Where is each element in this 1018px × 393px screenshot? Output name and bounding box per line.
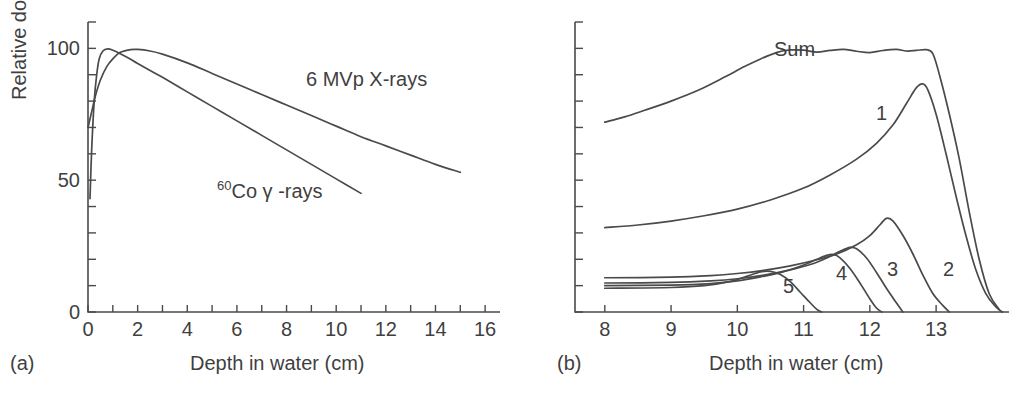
y-tick-label: 100 (47, 37, 80, 59)
figure-depth-dose: 0246810121416050100 Relative dose (%) De… (0, 0, 1018, 393)
x-tick-label: 16 (474, 318, 496, 340)
curve-60co-gamma-rays (90, 49, 361, 199)
x-tick-label: 14 (424, 318, 446, 340)
y-tick-label: 50 (58, 169, 80, 191)
x-tick-label: 6 (231, 318, 242, 340)
panel-a: 0246810121416050100 Relative dose (%) De… (0, 0, 509, 393)
panel-b: 8910111213 Depth in water (cm) (b) Sum 1… (509, 0, 1018, 393)
curve-2 (605, 218, 950, 312)
x-tick-label: 4 (182, 318, 193, 340)
x-tick-label: 8 (281, 318, 292, 340)
curve-sum (605, 49, 999, 309)
panel-b-plot: 8910111213 (509, 0, 1018, 393)
x-tick-label: 12 (859, 318, 881, 340)
y-tick-label: 0 (69, 301, 80, 323)
x-tick-label: 2 (132, 318, 143, 340)
x-tick-label: 11 (793, 318, 814, 340)
x-tick-label: 12 (375, 318, 397, 340)
x-tick-label: 8 (599, 318, 610, 340)
x-tick-label: 9 (666, 318, 677, 340)
x-tick-label: 10 (325, 318, 347, 340)
x-tick-label: 10 (726, 318, 748, 340)
x-tick-label: 0 (82, 318, 93, 340)
panel-a-plot: 0246810121416050100 (0, 0, 509, 393)
x-tick-label: 13 (925, 318, 947, 340)
